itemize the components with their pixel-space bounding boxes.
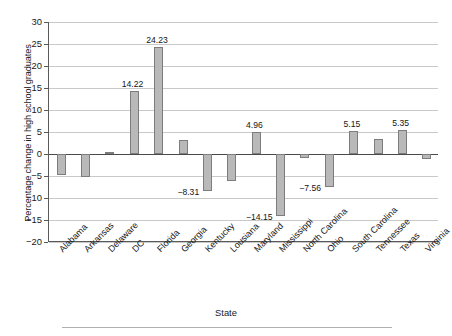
y-tick-mark [44, 22, 48, 23]
y-tick-mark [44, 44, 48, 45]
bar-value-label: 24.23 [146, 35, 168, 45]
bar-value-label: −7.56 [299, 183, 321, 193]
y-tick-mark [44, 220, 48, 221]
y-tick-label: 10 [14, 104, 42, 115]
bar [179, 140, 188, 154]
y-tick-mark [44, 198, 48, 199]
plot-area [48, 22, 438, 242]
bar [422, 154, 431, 159]
bar-chart: Percentage change in high school graduat… [0, 0, 452, 336]
bar-value-label: 4.96 [246, 120, 263, 130]
y-tick-label: 25 [14, 38, 42, 49]
gridline [49, 44, 438, 45]
y-tick-mark [44, 88, 48, 89]
gridline [49, 22, 438, 23]
gridline [49, 198, 438, 199]
bar [105, 152, 114, 154]
y-tick-mark [44, 176, 48, 177]
bar [374, 139, 383, 154]
bar [154, 47, 163, 154]
bar [57, 154, 66, 175]
bar [130, 91, 139, 154]
y-tick-label: 0 [14, 148, 42, 159]
x-axis-title: State [0, 307, 452, 318]
bar-value-label: 5.35 [392, 118, 409, 128]
bar [81, 154, 90, 177]
y-tick-label: −10 [14, 192, 42, 203]
gridline [49, 110, 438, 111]
gridline [49, 132, 438, 133]
bar [252, 132, 261, 154]
bar [203, 154, 212, 191]
y-tick-mark [44, 132, 48, 133]
y-tick-mark [44, 110, 48, 111]
y-tick-mark [44, 66, 48, 67]
y-tick-label: −5 [14, 170, 42, 181]
y-tick-label: 30 [14, 16, 42, 27]
gridline [49, 176, 438, 177]
bar [349, 131, 358, 154]
y-tick-label: 5 [14, 126, 42, 137]
bar-value-label: −8.31 [177, 187, 199, 197]
bar-value-label: 14.22 [122, 79, 144, 89]
y-tick-mark [44, 154, 48, 155]
bar [227, 154, 236, 181]
y-tick-mark [44, 242, 48, 243]
y-tick-label: −20 [14, 236, 42, 247]
bar-value-label: 5.15 [343, 119, 360, 129]
footer-rule [62, 327, 392, 328]
y-tick-label: 15 [14, 82, 42, 93]
bar [276, 154, 285, 216]
bar [325, 154, 334, 187]
bar [398, 130, 407, 154]
y-tick-label: 20 [14, 60, 42, 71]
gridline [49, 66, 438, 67]
gridline [49, 88, 438, 89]
bar-value-label: −14.15 [246, 212, 273, 222]
y-tick-label: −15 [14, 214, 42, 225]
bar [300, 154, 309, 158]
